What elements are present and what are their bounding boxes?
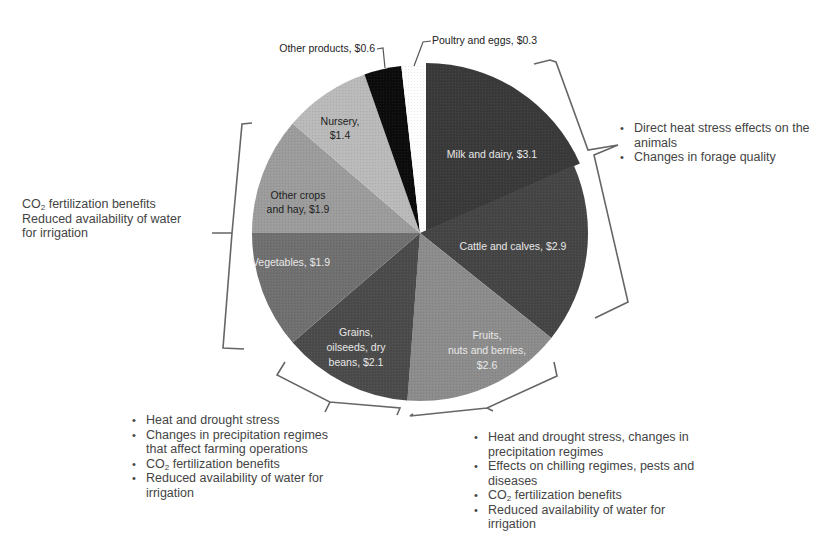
grains-item-3: CO2 fertilization benefits: [130, 457, 330, 472]
label-other-crops-2: and hay, $1.9: [267, 203, 330, 215]
label-fruits-3: $2.6: [477, 359, 498, 371]
annotation-livestock: Direct heat stress effects on the animal…: [618, 121, 828, 165]
label-vegetables: Vegetables, $1.9: [252, 256, 330, 268]
livestock-item-2: Changes in forage quality: [618, 150, 828, 165]
crops-left-line-3: for irrigation: [22, 226, 222, 241]
annotation-grains: Heat and drought stress Changes in preci…: [130, 413, 330, 500]
label-grains-3: beans, $2.1: [329, 356, 384, 368]
label-other-products: Other products, $0.6: [279, 42, 375, 54]
label-cattle: Cattle and calves, $2.9: [460, 240, 567, 252]
leader-poultry: [414, 41, 431, 66]
leader-other-products: [377, 48, 385, 68]
grains-item-2: Changes in precipitation regimes that af…: [130, 428, 330, 457]
label-grains-2: oilseeds, dry: [327, 341, 387, 353]
label-other-crops-1: Other crops: [271, 189, 326, 201]
grains-item-1: Heat and drought stress: [130, 413, 330, 428]
fruits-item-4: Reduced availability of water for irriga…: [472, 503, 712, 532]
label-fruits-1: Fruits,: [472, 329, 501, 341]
label-grains-1: Grains,: [339, 326, 373, 338]
livestock-item-1: Direct heat stress effects on the animal…: [618, 121, 828, 150]
label-nursery-1: Nursery,: [321, 115, 360, 127]
crops-left-line-2: Reduced availability of water: [22, 212, 222, 227]
crops-left-line-1: CO2 fertilization benefits: [22, 197, 222, 212]
fruits-item-1: Heat and drought stress, changes in prec…: [472, 430, 712, 459]
label-milk: Milk and dairy, $3.1: [447, 148, 537, 160]
fruits-item-3: CO2 fertilization benefits: [472, 488, 712, 503]
label-nursery-2: $1.4: [330, 129, 351, 141]
fruits-item-2: Effects on chilling regimes, pests and d…: [472, 459, 712, 488]
annotation-fruits: Heat and drought stress, changes in prec…: [472, 430, 712, 532]
annotation-crops-left: CO2 fertilization benefits Reduced avail…: [22, 197, 222, 241]
label-fruits-2: nuts and berries,: [448, 344, 526, 356]
label-poultry: Poultry and eggs, $0.3: [432, 34, 537, 46]
grains-item-4: Reduced availability of water for irriga…: [130, 471, 330, 500]
